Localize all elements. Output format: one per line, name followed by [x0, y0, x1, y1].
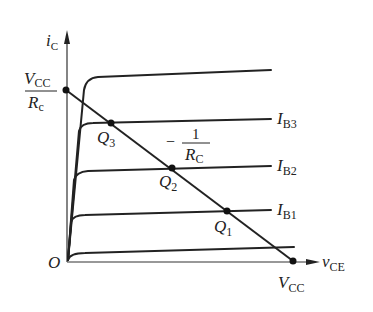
- q1-point: [224, 208, 231, 215]
- svg-text:1: 1: [192, 126, 200, 142]
- q1-label: Q1: [214, 217, 232, 239]
- q2-label: Q2: [159, 172, 177, 194]
- svg-text:RC: RC: [184, 145, 203, 166]
- y-axis-label: iC: [46, 31, 58, 52]
- vcc-point: [290, 258, 297, 265]
- x-intercept-label: VCC: [278, 273, 304, 295]
- y-axis-arrow-icon: [64, 30, 70, 44]
- ib2-label: IB2: [276, 156, 297, 178]
- output-characteristics-diagram: iC VCC Rc O vCE VCC IB3 IB2 IB1 Q3 Q2 Q1…: [0, 0, 373, 312]
- svg-text:VCC: VCC: [24, 69, 50, 90]
- y-intercept-label: VCC Rc: [24, 69, 57, 114]
- x-axis-label: vCE: [322, 252, 345, 274]
- slope-label: − 1 RC: [166, 126, 210, 166]
- load-line: [66, 90, 293, 261]
- svg-text:−: −: [166, 133, 175, 150]
- q3-label: Q3: [97, 128, 115, 150]
- ib1-label: IB1: [276, 200, 297, 222]
- svg-text:Rc: Rc: [27, 93, 44, 114]
- curve-saturation-top: [68, 70, 271, 260]
- q2-point: [169, 165, 176, 172]
- origin-label: O: [48, 253, 60, 272]
- q3-point: [108, 120, 115, 127]
- y-intercept-point: [63, 87, 70, 94]
- x-axis-arrow-icon: [306, 259, 320, 265]
- ib3-label: IB3: [276, 109, 297, 131]
- curve-ib0: [68, 247, 294, 260]
